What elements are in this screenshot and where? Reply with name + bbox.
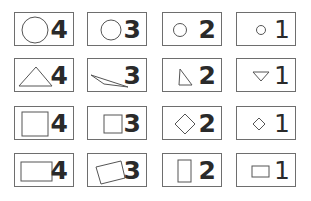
card-number: 1 bbox=[274, 15, 290, 45]
rectangle-small-icon bbox=[237, 154, 277, 188]
card-number: 1 bbox=[274, 109, 290, 139]
card-number: 2 bbox=[199, 15, 216, 45]
card-number: 2 bbox=[199, 61, 216, 91]
rectangle-large-icon bbox=[15, 154, 55, 188]
card-number: 4 bbox=[51, 109, 68, 139]
card-triangle-4: 4 bbox=[14, 58, 74, 92]
diamond-small-icon bbox=[237, 107, 277, 141]
card-square-4: 4 bbox=[14, 106, 74, 140]
card-triangle-3: 3 bbox=[87, 58, 147, 92]
card-circle-3: 3 bbox=[87, 12, 147, 46]
square-large-icon bbox=[15, 107, 55, 141]
card-number: 1 bbox=[274, 156, 290, 186]
card-diamond-2: 2 bbox=[162, 106, 222, 140]
card-number: 3 bbox=[124, 61, 141, 91]
square-medium-icon bbox=[88, 107, 128, 141]
card-rectangle-4: 4 bbox=[14, 153, 74, 187]
card-number: 3 bbox=[124, 15, 141, 45]
card-rectangle-2: 2 bbox=[162, 153, 222, 187]
circle-tiny-icon bbox=[237, 13, 277, 47]
triangle-small-icon bbox=[163, 59, 203, 93]
card-number: 3 bbox=[124, 109, 141, 139]
triangle-inverted-icon bbox=[237, 59, 277, 93]
card-number: 1 bbox=[274, 61, 290, 91]
circle-large-icon bbox=[15, 13, 55, 47]
circle-medium-icon bbox=[88, 13, 128, 47]
card-triangle-2: 2 bbox=[162, 58, 222, 92]
card-number: 3 bbox=[124, 156, 141, 186]
card-diamond-1: 1 bbox=[236, 106, 296, 140]
card-number: 4 bbox=[51, 15, 68, 45]
rectangle-vertical-icon bbox=[163, 154, 203, 188]
card-square-3: 3 bbox=[87, 106, 147, 140]
card-number: 2 bbox=[199, 156, 216, 186]
circle-small-icon bbox=[163, 13, 203, 47]
card-triangle-1: 1 bbox=[236, 58, 296, 92]
card-number: 4 bbox=[51, 156, 68, 186]
card-rectangle-1: 1 bbox=[236, 153, 296, 187]
card-circle-4: 4 bbox=[14, 12, 74, 46]
card-circle-2: 2 bbox=[162, 12, 222, 46]
card-circle-1: 1 bbox=[236, 12, 296, 46]
card-number: 2 bbox=[199, 109, 216, 139]
card-number: 4 bbox=[51, 61, 68, 91]
card-rectangle-3: 3 bbox=[87, 153, 147, 187]
diamond-medium-icon bbox=[163, 107, 203, 141]
